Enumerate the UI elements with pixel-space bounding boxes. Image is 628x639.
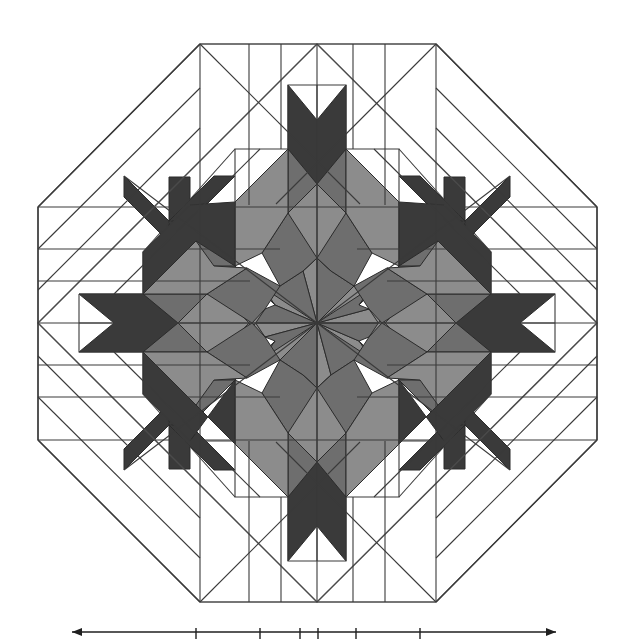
quilt-diagram: [0, 0, 628, 639]
figure-root: [0, 0, 628, 639]
